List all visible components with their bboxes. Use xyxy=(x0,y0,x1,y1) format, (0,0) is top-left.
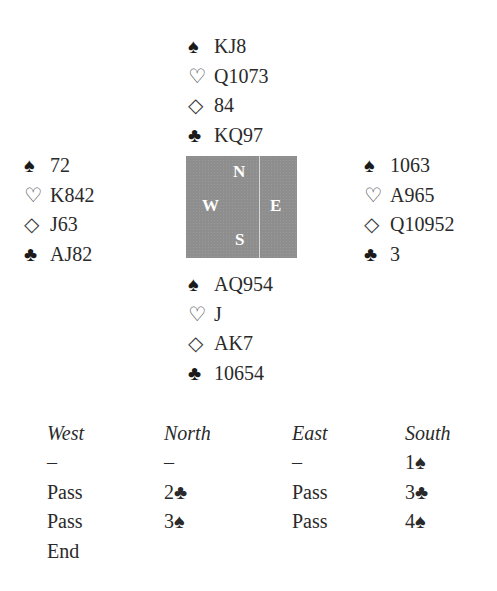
bid-cell: 4♠ xyxy=(405,507,451,537)
bid-cell: 3♣ xyxy=(405,478,451,508)
heart-icon: ♡ xyxy=(188,62,214,92)
west-hearts: ♡K842 xyxy=(24,181,94,211)
bid-cell: Pass xyxy=(47,478,164,508)
diamond-icon: ◇ xyxy=(364,210,390,240)
west-diamonds: ◇J63 xyxy=(24,210,94,240)
bid-cell: Pass xyxy=(292,478,405,508)
club-icon: ♣ xyxy=(188,121,214,151)
spade-icon: ♠ xyxy=(188,32,214,62)
bid-cell: 3♠ xyxy=(164,507,292,537)
west-diamonds-cards: J63 xyxy=(50,210,78,240)
auction-header-west: West xyxy=(47,418,164,448)
east-spades: ♠1063 xyxy=(364,151,454,181)
west-hearts-cards: K842 xyxy=(50,181,94,211)
bid-cell: Pass xyxy=(292,507,405,537)
auction-header-south: South xyxy=(405,418,451,448)
south-diamonds: ◇AK7 xyxy=(188,329,273,359)
heart-icon: ♡ xyxy=(24,181,50,211)
east-diamonds-cards: Q10952 xyxy=(390,210,454,240)
east-clubs-cards: 3 xyxy=(390,240,400,270)
north-hearts: ♡Q1073 xyxy=(188,62,268,92)
compass-box: N W E S xyxy=(186,156,297,258)
west-hand: ♠72 ♡K842 ◇J63 ♣AJ82 xyxy=(24,151,94,269)
south-diamonds-cards: AK7 xyxy=(214,329,253,359)
north-spades: ♠KJ8 xyxy=(188,32,268,62)
bid-cell: – xyxy=(164,448,292,478)
bid-cell: – xyxy=(292,448,405,478)
south-spades: ♠AQ954 xyxy=(188,270,273,300)
compass-west-label: W xyxy=(202,196,219,216)
auction-table: West North East South – – – 1♠ Pass 2♣ P… xyxy=(47,418,451,566)
west-clubs: ♣AJ82 xyxy=(24,240,94,270)
bid-cell: Pass xyxy=(47,507,164,537)
compass-north-label: N xyxy=(233,162,245,182)
south-spades-cards: AQ954 xyxy=(214,270,273,300)
bid-cell: 2♣ xyxy=(164,478,292,508)
east-hand: ♠1063 ♡A965 ◇Q10952 ♣3 xyxy=(364,151,454,269)
south-clubs-cards: 10654 xyxy=(214,359,264,389)
north-diamonds-cards: 84 xyxy=(214,91,234,121)
north-clubs-cards: KQ97 xyxy=(214,121,263,151)
diamond-icon: ◇ xyxy=(188,91,214,121)
north-hearts-cards: Q1073 xyxy=(214,62,268,92)
west-spades: ♠72 xyxy=(24,151,94,181)
spade-icon: ♠ xyxy=(364,151,390,181)
club-icon: ♣ xyxy=(364,240,390,270)
east-hearts: ♡A965 xyxy=(364,181,454,211)
heart-icon: ♡ xyxy=(364,181,390,211)
bid-cell: End xyxy=(47,537,164,567)
east-diamonds: ◇Q10952 xyxy=(364,210,454,240)
club-icon: ♣ xyxy=(188,359,214,389)
auction-header-east: East xyxy=(292,418,405,448)
heart-icon: ♡ xyxy=(188,300,214,330)
diamond-icon: ◇ xyxy=(24,210,50,240)
bid-cell: 1♠ xyxy=(405,448,451,478)
auction-row: – – – 1♠ xyxy=(47,448,451,478)
compass-divider xyxy=(259,156,260,258)
bid-cell xyxy=(164,537,292,567)
auction-header-north: North xyxy=(164,418,292,448)
east-hearts-cards: A965 xyxy=(390,181,434,211)
diamond-icon: ◇ xyxy=(188,329,214,359)
north-diamonds: ◇84 xyxy=(188,91,268,121)
auction-row: Pass 2♣ Pass 3♣ xyxy=(47,478,451,508)
west-spades-cards: 72 xyxy=(50,151,70,181)
west-clubs-cards: AJ82 xyxy=(50,240,92,270)
bid-cell: – xyxy=(47,448,164,478)
south-clubs: ♣10654 xyxy=(188,359,273,389)
auction-row: Pass 3♠ Pass 4♠ xyxy=(47,507,451,537)
east-spades-cards: 1063 xyxy=(390,151,430,181)
club-icon: ♣ xyxy=(24,240,50,270)
compass-south-label: S xyxy=(235,230,244,250)
north-spades-cards: KJ8 xyxy=(214,32,246,62)
south-hand: ♠AQ954 ♡J ◇AK7 ♣10654 xyxy=(188,270,273,388)
south-hearts: ♡J xyxy=(188,300,273,330)
auction-row: End xyxy=(47,537,451,567)
auction-header-row: West North East South xyxy=(47,418,451,448)
north-hand: ♠KJ8 ♡Q1073 ◇84 ♣KQ97 xyxy=(188,32,268,150)
north-clubs: ♣KQ97 xyxy=(188,121,268,151)
east-clubs: ♣3 xyxy=(364,240,454,270)
bid-cell xyxy=(405,537,451,567)
compass-east-label: E xyxy=(270,196,281,216)
south-hearts-cards: J xyxy=(214,300,222,330)
spade-icon: ♠ xyxy=(24,151,50,181)
bid-cell xyxy=(292,537,405,567)
spade-icon: ♠ xyxy=(188,270,214,300)
